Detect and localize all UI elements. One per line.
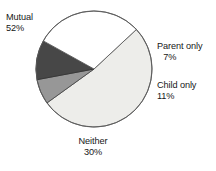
- slice-label-child-only-value: 11%: [157, 91, 196, 102]
- slice-label-child-only: Child only 11%: [157, 80, 196, 103]
- slice-label-neither-name: Neither: [64, 136, 122, 147]
- slice-label-mutual-name: Mutual: [6, 12, 38, 23]
- slice-label-mutual-value: 52%: [6, 23, 38, 34]
- pie-chart-figure: Mutual 52% Parent only 7% Child only 11%…: [0, 0, 216, 171]
- slice-label-child-only-name: Child only: [157, 80, 196, 91]
- slice-label-parent-only-name: Parent only: [157, 41, 202, 52]
- slice-label-neither-value: 30%: [64, 147, 122, 158]
- slice-label-parent-only: Parent only 7%: [157, 41, 202, 64]
- slice-label-neither: Neither 30%: [64, 136, 122, 159]
- slice-label-parent-only-value: 7%: [157, 52, 202, 63]
- pie-slices-group: [36, 11, 152, 127]
- slice-label-mutual: Mutual 52%: [6, 12, 38, 35]
